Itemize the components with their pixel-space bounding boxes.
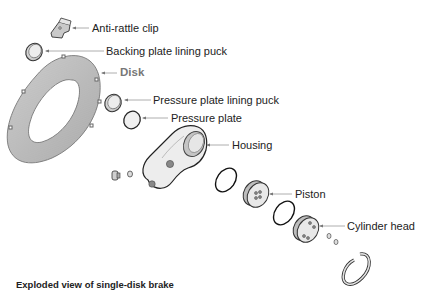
bleed-screw-part <box>112 171 133 180</box>
label-disk: Disk <box>120 66 144 78</box>
label-pressure-plate-lining-puck: Pressure plate lining puck <box>153 94 279 106</box>
label-pressure-plate: Pressure plate <box>171 112 242 124</box>
label-housing: Housing <box>232 139 272 151</box>
diagram-canvas: Anti-rattle clip Backing plate lining pu… <box>0 0 426 303</box>
label-backing-plate-lining-puck: Backing plate lining puck <box>106 45 227 57</box>
snap-ring-part <box>343 254 369 284</box>
backing-plate-lining-puck-part <box>23 40 46 64</box>
piston-part <box>239 177 273 212</box>
label-cylinder-head: Cylinder head <box>347 220 415 232</box>
anti-rattle-clip-part <box>51 18 71 38</box>
o-ring-part <box>211 164 241 196</box>
disk-part <box>7 55 101 163</box>
housing-part <box>143 126 209 189</box>
pressure-plate-lining-puck-part <box>102 91 125 115</box>
pressure-plate-part <box>121 108 144 132</box>
figure-caption: Exploded view of single-disk brake <box>16 279 174 290</box>
label-piston: Piston <box>295 188 326 200</box>
cylinder-head-part <box>289 212 338 247</box>
label-anti-rattle-clip: Anti-rattle clip <box>92 22 159 34</box>
